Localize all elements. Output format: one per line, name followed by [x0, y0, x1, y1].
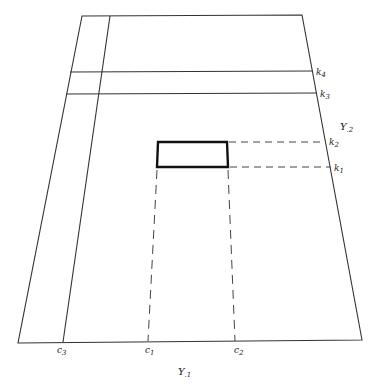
diagram-canvas: k4 k3 k2 k1 Y.2 c3 c1 c2 Y.1	[0, 0, 378, 386]
label-k2: k2	[329, 137, 339, 149]
label-y2-axis: Y.2	[340, 121, 354, 134]
label-k3: k3	[320, 89, 330, 101]
c1-dashed-line	[148, 170, 157, 341]
label-y1-axis: Y.1	[178, 366, 191, 379]
inner-vertical-line	[63, 16, 110, 342]
label-k4: k4	[316, 67, 326, 79]
label-k1: k1	[334, 163, 344, 175]
label-c1: c1	[145, 345, 155, 357]
bold-rectangle	[157, 142, 228, 167]
label-c2: c2	[234, 345, 244, 357]
k3-line	[66, 93, 317, 94]
k4-line	[70, 71, 313, 72]
label-c3: c3	[57, 345, 67, 357]
c2-dashed-line	[228, 170, 235, 341]
